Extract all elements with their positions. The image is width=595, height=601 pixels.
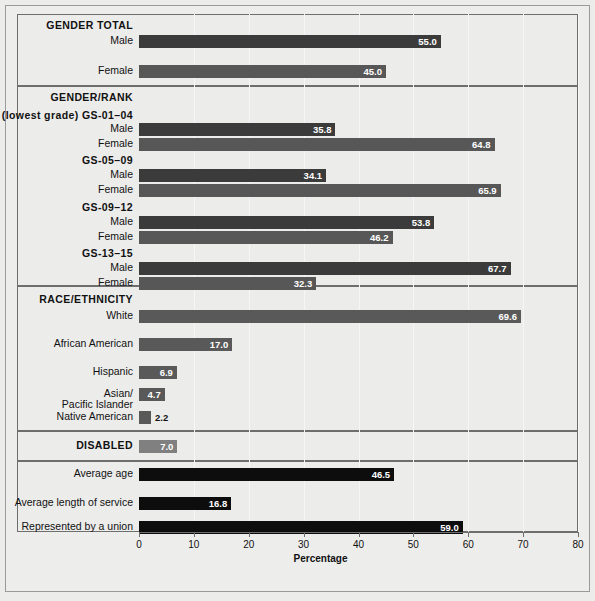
x-tick	[413, 532, 414, 537]
x-tick-label: 0	[124, 539, 154, 550]
row-label: Female	[0, 184, 133, 195]
row-label: Female	[0, 277, 133, 288]
bar-value-label: 17.0	[202, 338, 228, 351]
bar-female	[139, 65, 386, 78]
bar-value-label: 45.0	[356, 65, 382, 78]
chart-figure: GENDER TOTALMaleFemaleGENDER/RANK(lowest…	[0, 0, 595, 601]
bar-male	[139, 35, 441, 48]
bar-value-label: 16.8	[201, 497, 227, 510]
row-label: Male	[0, 216, 133, 227]
row-label-line: Pacific Islander	[0, 399, 133, 410]
x-tick	[523, 532, 524, 537]
section-heading-race-ethnicity: RACE/ETHNICITY	[0, 294, 133, 305]
gridline	[578, 14, 579, 532]
bar-average-age	[139, 468, 394, 481]
bar-female	[139, 138, 495, 151]
x-tick-label: 20	[234, 539, 264, 550]
bar-value-label: 4.7	[135, 388, 161, 401]
x-tick	[194, 532, 195, 537]
bar-value-label: 69.6	[491, 310, 517, 323]
section-heading-gender-rank: GENDER/RANK	[0, 92, 133, 103]
x-axis-title-text: Percentage	[294, 553, 348, 564]
row-label: Represented by a union	[0, 521, 133, 532]
x-tick-label: 10	[179, 539, 209, 550]
bar-female	[139, 231, 393, 244]
gridline	[523, 14, 524, 532]
bar-value-label: 64.8	[465, 138, 491, 151]
bar-native-american	[139, 411, 151, 424]
bar-male	[139, 262, 511, 275]
x-tick-label: 60	[453, 539, 483, 550]
row-label: Male	[0, 262, 133, 273]
x-tick	[304, 532, 305, 537]
bar-value-label: 67.7	[481, 262, 507, 275]
x-tick-label: 40	[344, 539, 374, 550]
bar-value-label: 53.8	[404, 216, 430, 229]
bar-value-label: 35.8	[305, 123, 331, 136]
subheading-label: GS-09–12	[0, 202, 133, 213]
row-label: Average length of service	[0, 497, 133, 508]
row-label: Native American	[0, 411, 133, 422]
subheading-label: GS-05–09	[0, 155, 133, 166]
bar-value-label: 6.9	[147, 366, 173, 379]
bar-value-label: 46.5	[364, 468, 390, 481]
row-label: Male	[0, 169, 133, 180]
section-heading-gender-total: GENDER TOTAL	[0, 20, 133, 31]
row-label: African American	[0, 338, 133, 349]
row-label: Average age	[0, 468, 133, 479]
bar-value-label: 65.9	[471, 184, 497, 197]
bar-value-label: 32.3	[286, 277, 312, 290]
x-tick	[139, 532, 140, 537]
subheading-label: GS-13–15	[0, 248, 133, 259]
bar-female	[139, 184, 501, 197]
row-label: Female	[0, 231, 133, 242]
x-tick-label: 50	[398, 539, 428, 550]
x-tick	[578, 532, 579, 537]
section-heading-disabled: DISABLED	[0, 440, 133, 451]
bar-male	[139, 216, 434, 229]
x-axis-title: Percentage	[0, 553, 595, 564]
x-tick	[359, 532, 360, 537]
bar-value-label: 7.0	[147, 440, 173, 453]
plot-area: 55.045.035.864.834.165.953.846.267.732.3…	[139, 14, 578, 532]
subheading-label: (lowest grade) GS-01–04	[0, 110, 133, 121]
row-label: Hispanic	[0, 366, 133, 377]
row-label: Asian/Pacific Islander	[0, 388, 133, 410]
x-tick-label: 80	[563, 539, 593, 550]
bar-value-label: 34.1	[296, 169, 322, 182]
bar-value-label: 55.0	[411, 35, 437, 48]
chart-panel: GENDER TOTALMaleFemaleGENDER/RANK(lowest…	[17, 14, 578, 532]
bar-white	[139, 310, 521, 323]
bar-value-label: 2.2	[155, 411, 168, 424]
row-label: Female	[0, 138, 133, 149]
bar-value-label: 46.2	[363, 231, 389, 244]
row-label: Male	[0, 35, 133, 46]
x-tick	[468, 532, 469, 537]
x-tick	[249, 532, 250, 537]
row-label: Male	[0, 123, 133, 134]
row-label: White	[0, 310, 133, 321]
x-tick-label: 30	[289, 539, 319, 550]
x-tick-label: 70	[508, 539, 538, 550]
row-label: Female	[0, 65, 133, 76]
